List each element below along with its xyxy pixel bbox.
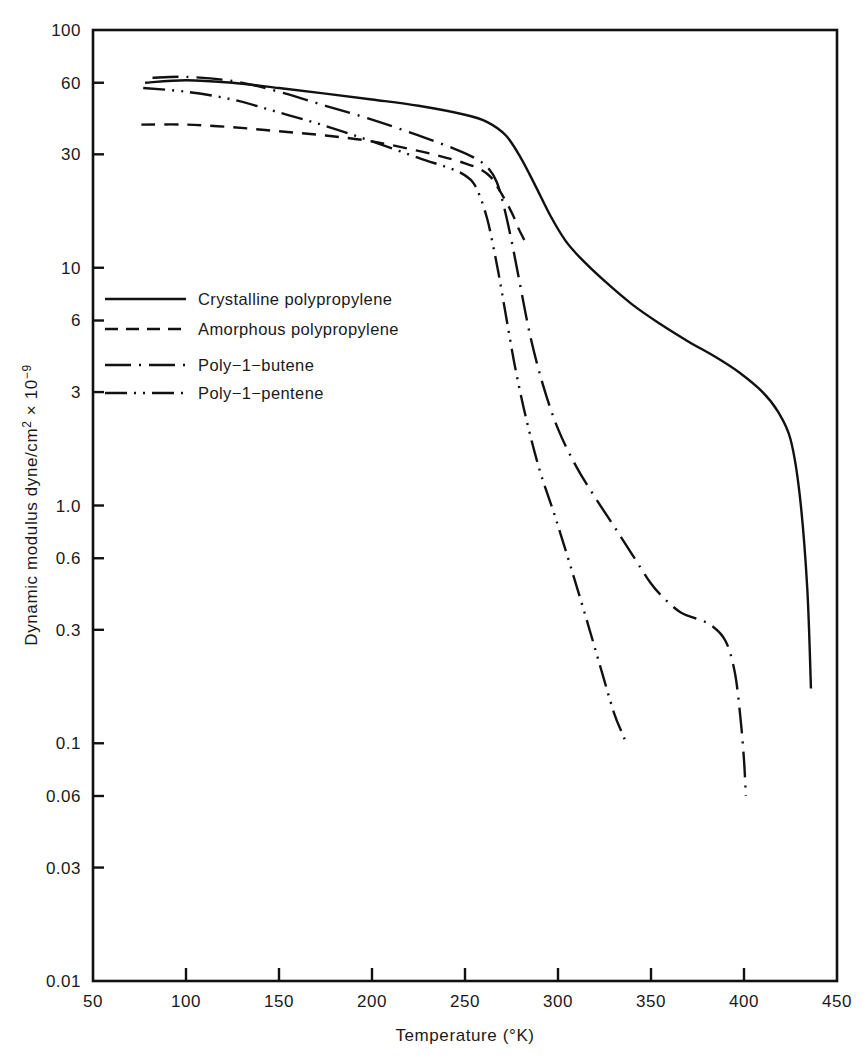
x-tick-label: 100 — [171, 992, 201, 1011]
x-tick-label: 150 — [264, 992, 294, 1011]
y-tick-label: 3 — [71, 383, 81, 402]
x-tick-label: 350 — [636, 992, 666, 1011]
y-axis-title-main: Dynamic modulus dyne/cm — [22, 428, 41, 646]
y-tick-label: 60 — [61, 74, 81, 93]
x-axis-tick-labels: 50100150200250300350400450 — [83, 992, 852, 1011]
y-tick-label: 0.3 — [56, 621, 81, 640]
x-tick-label: 400 — [729, 992, 759, 1011]
plot-frame — [93, 30, 837, 981]
x-tick-label: 300 — [543, 992, 573, 1011]
y-axis-title-sup-exp: −9 — [20, 364, 34, 379]
x-tick-label: 200 — [357, 992, 387, 1011]
data-series-group — [141, 77, 811, 796]
x-axis-ticks — [93, 968, 837, 981]
y-axis-tick-labels: 100603010631.00.60.30.10.060.030.01 — [46, 21, 81, 991]
y-tick-label: 0.01 — [46, 972, 81, 991]
series-line — [153, 77, 746, 796]
y-axis-title-sup-2: 2 — [20, 421, 34, 428]
series-line — [141, 124, 524, 240]
legend-label: Crystalline polypropylene — [198, 290, 392, 308]
line-chart: 100603010631.00.60.30.10.060.030.01 5010… — [0, 0, 866, 1061]
legend-label: Amorphous polypropylene — [198, 320, 399, 338]
x-tick-label: 50 — [83, 992, 103, 1011]
legend-label: Poly−1−pentene — [198, 384, 324, 402]
chart-legend: Crystalline polypropyleneAmorphous polyp… — [105, 290, 399, 402]
y-tick-label: 30 — [61, 145, 81, 164]
x-tick-label: 450 — [822, 992, 852, 1011]
y-tick-label: 0.6 — [56, 549, 81, 568]
y-axis-title-times: × 10 — [22, 379, 41, 420]
legend-label: Poly−1−butene — [198, 356, 314, 374]
x-axis-title: Temperature (°K) — [395, 1026, 534, 1045]
figure-container: 100603010631.00.60.30.10.060.030.01 5010… — [0, 0, 866, 1061]
y-tick-label: 100 — [51, 21, 81, 40]
y-axis-title: Dynamic modulus dyne/cm2 × 10−9 — [20, 364, 41, 645]
y-tick-label: 6 — [71, 311, 81, 330]
series-line — [143, 88, 627, 745]
y-tick-label: 10 — [61, 259, 81, 278]
y-tick-label: 1.0 — [56, 497, 81, 516]
y-tick-label: 0.1 — [56, 734, 81, 753]
y-tick-label: 0.06 — [46, 787, 81, 806]
y-axis-ticks — [93, 30, 104, 981]
x-tick-label: 250 — [450, 992, 480, 1011]
y-tick-label: 0.03 — [46, 859, 81, 878]
